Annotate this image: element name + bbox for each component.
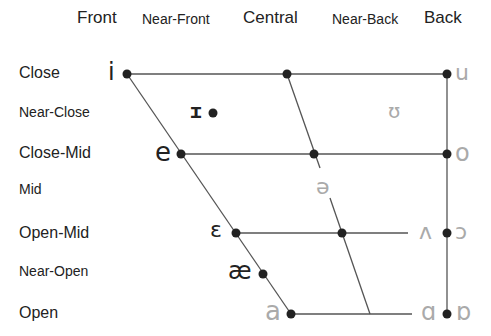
dot-open-mid-front	[232, 229, 241, 238]
vowel-turned-script-a: ɒ	[456, 300, 471, 324]
front-edge-line	[127, 74, 291, 314]
dot-open-back	[443, 310, 452, 319]
vowel-open-o: ɔ	[455, 221, 467, 243]
vowel-upsilon: ʊ	[388, 101, 400, 121]
dot-close-mid-back	[443, 150, 452, 159]
vowel-e: e	[155, 139, 171, 165]
vowel-wedge: ʌ	[419, 221, 432, 243]
dot-near-open-front	[259, 270, 268, 279]
vowel-ash: æ	[228, 259, 252, 283]
dot-close-central	[283, 70, 292, 79]
vowel-near-close-i: ɪ	[190, 101, 202, 121]
central-line-lower	[330, 198, 370, 314]
vowel-schwa: ə	[316, 176, 330, 198]
vowel-a: a	[265, 298, 281, 324]
vowel-u: u	[455, 62, 469, 84]
vowel-o: o	[455, 141, 470, 165]
dot-close-front	[123, 70, 132, 79]
dot-close-back	[443, 70, 452, 79]
dot-near-close-front	[209, 109, 218, 118]
vowel-epsilon: ɛ	[210, 219, 222, 241]
vowel-script-a: ɑ	[421, 300, 436, 324]
vowel-trapezoid	[0, 0, 491, 336]
dot-close-mid-central	[310, 150, 319, 159]
dot-close-mid-front	[177, 150, 186, 159]
dot-open-mid-central	[338, 229, 347, 238]
dot-open-mid-back	[443, 229, 452, 238]
vowel-i: i	[108, 60, 115, 84]
dot-open-front	[287, 310, 296, 319]
